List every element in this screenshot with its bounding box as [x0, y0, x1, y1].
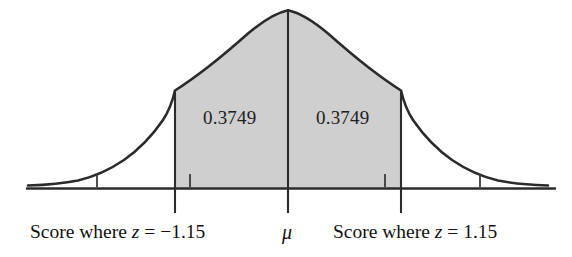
right-caption-prefix-text: Score where: [333, 221, 435, 242]
left-caption-prefix-text: Score where: [30, 221, 132, 242]
distribution-chart-svg: [0, 0, 572, 257]
right-caption-value: = 1.15: [442, 221, 497, 242]
normal-distribution-figure: 0.3749 0.3749 Score where z = −1.15 μ Sc…: [0, 0, 572, 257]
mean-symbol-label: μ: [282, 222, 292, 242]
left-score-caption: Score where z = −1.15: [30, 222, 205, 242]
right-area-value-label: 0.3749: [316, 108, 369, 127]
right-score-caption: Score where z = 1.15: [333, 222, 497, 242]
left-area-value-label: 0.3749: [203, 108, 256, 127]
left-caption-value: = −1.15: [139, 221, 205, 242]
